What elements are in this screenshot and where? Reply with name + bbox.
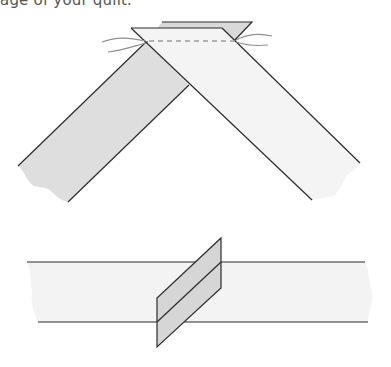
left-strip	[18, 42, 189, 202]
mitered-join-figure	[18, 22, 360, 202]
thread-tail-left-1	[102, 38, 146, 42]
thread-tail-right-1	[236, 34, 272, 40]
thread-tail-right-2	[236, 42, 268, 46]
pressed-seam-figure	[27, 238, 372, 347]
right-strip	[131, 28, 360, 200]
binding-diagram	[0, 0, 391, 367]
